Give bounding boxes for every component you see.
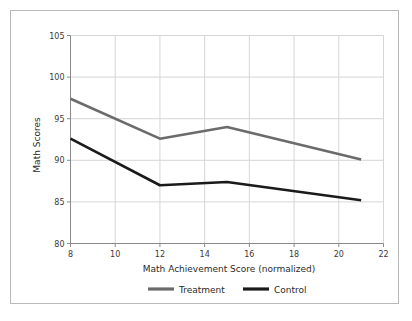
x-tick-label: 22 [378,250,388,259]
y-tick-labels: 80859095100105 [49,32,64,249]
y-tick-marks [67,36,71,244]
x-tick-label: 8 [68,250,73,259]
y-tick-label: 105 [49,32,64,41]
y-tick-label: 85 [54,198,64,207]
x-tick-label: 16 [244,250,254,259]
y-tick-label: 80 [54,240,64,249]
x-tick-label: 18 [289,250,299,259]
x-tick-labels: 810121416182022 [68,250,389,259]
y-tick-label: 90 [54,156,64,165]
series-line-treatment [71,99,362,160]
x-tick-label: 20 [334,250,344,259]
y-tick-label: 100 [49,73,64,82]
x-tick-marks [71,244,384,248]
x-tick-label: 12 [155,250,165,259]
line-chart-plot: 810121416182022 80859095100105 Math Achi… [0,0,412,321]
x-tick-label: 10 [110,250,120,259]
chart-figure: 810121416182022 80859095100105 Math Achi… [0,0,412,321]
y-tick-label: 95 [54,115,64,124]
grid-lines [71,36,384,244]
y-axis-title: Math Scores [32,117,42,173]
legend-label-treatment: Treatment [178,285,225,295]
legend-label-control: Control [274,285,307,295]
axis-lines [71,36,384,244]
x-axis-title: Math Achievement Score (normalized) [143,264,315,274]
x-tick-label: 14 [200,250,210,259]
data-series-lines [71,99,362,201]
legend: TreatmentControl [148,285,307,295]
